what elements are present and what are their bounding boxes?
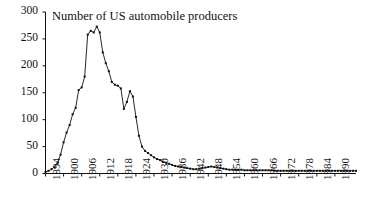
data-point-marker — [96, 26, 98, 28]
data-point-marker — [105, 62, 107, 64]
x-axis-tick-label: 1960 — [248, 158, 260, 180]
data-point-marker — [280, 170, 282, 172]
chart-container: Number of US automobile producers 050100… — [0, 0, 366, 221]
x-axis-tick-label: 1954 — [230, 158, 242, 180]
x-axis-tick-label: 1918 — [122, 158, 134, 180]
y-axis-tick-label: 50 — [4, 139, 38, 151]
data-point-marker — [352, 170, 354, 172]
data-point-marker — [225, 168, 227, 170]
y-axis-tick-label: 150 — [4, 85, 38, 97]
axis-group — [43, 12, 357, 177]
data-point-marker — [93, 31, 95, 33]
data-point-marker — [207, 166, 209, 168]
data-point-marker — [69, 124, 71, 126]
x-axis-tick-label: 1948 — [212, 158, 224, 180]
data-point-marker — [108, 70, 110, 72]
x-axis-tick-label: 1978 — [303, 158, 315, 180]
x-axis-tick-label: 1912 — [104, 158, 116, 180]
x-axis-tick-label: 1936 — [176, 158, 188, 180]
data-point-marker — [355, 170, 357, 172]
x-axis-tick-label: 1942 — [194, 158, 206, 180]
data-point-marker — [316, 170, 318, 172]
data-point-marker — [334, 170, 336, 172]
data-point-marker — [84, 76, 86, 78]
data-point-marker — [111, 81, 113, 83]
data-point-marker — [132, 96, 134, 98]
y-axis-tick-label: 250 — [4, 31, 38, 43]
x-axis-tick-label: 1990 — [339, 158, 351, 180]
data-point-marker — [45, 171, 47, 173]
y-axis-tick-label: 100 — [4, 112, 38, 124]
data-point-marker — [138, 135, 140, 137]
data-point-marker — [147, 152, 149, 154]
x-axis-tick-label: 1894 — [50, 158, 62, 180]
data-point-marker — [298, 170, 300, 172]
data-point-marker — [243, 169, 245, 171]
data-point-marker — [114, 84, 116, 86]
y-axis-tick-label: 300 — [4, 4, 38, 16]
x-axis-tick-label: 1966 — [267, 158, 279, 180]
chart-plot-area — [0, 0, 366, 221]
data-point-marker — [117, 85, 119, 87]
x-axis-tick-label: 1972 — [285, 158, 297, 180]
y-axis-tick-label: 200 — [4, 58, 38, 70]
data-series-line — [46, 27, 357, 172]
x-axis-tick-label: 1924 — [140, 158, 152, 180]
data-point-marker — [141, 146, 143, 148]
data-point-marker — [60, 154, 62, 156]
data-point-marker — [99, 31, 101, 33]
data-point-marker — [189, 168, 191, 170]
y-axis-tick-label: 0 — [4, 166, 38, 178]
data-point-marker — [150, 154, 152, 156]
data-point-marker — [126, 101, 128, 103]
x-axis-tick-label: 1984 — [321, 158, 333, 180]
data-point-marker — [120, 87, 122, 89]
data-point-marker — [123, 108, 125, 110]
data-point-marker — [90, 30, 92, 32]
data-point-marker — [81, 86, 83, 88]
data-series-markers — [45, 26, 358, 173]
data-point-marker — [153, 156, 155, 158]
data-point-marker — [66, 132, 68, 134]
data-point-marker — [87, 34, 89, 36]
data-point-marker — [72, 113, 74, 115]
data-point-marker — [135, 116, 137, 118]
data-point-marker — [63, 141, 65, 143]
data-point-marker — [171, 164, 173, 166]
x-axis-tick-label: 1906 — [86, 158, 98, 180]
data-point-marker — [102, 51, 104, 53]
data-point-marker — [129, 90, 131, 92]
x-axis-tick-label: 1900 — [68, 158, 80, 180]
data-point-marker — [75, 107, 77, 109]
data-point-marker — [262, 169, 264, 171]
data-point-marker — [78, 89, 80, 91]
data-point-marker — [144, 150, 146, 152]
x-axis-tick-label: 1930 — [158, 158, 170, 180]
